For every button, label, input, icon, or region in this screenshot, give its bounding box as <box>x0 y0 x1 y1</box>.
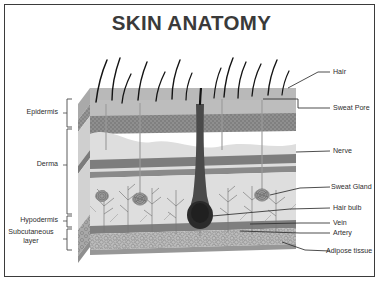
label-subcutaneous-line2: layer <box>2 237 60 246</box>
label-epidermis: Epidermis <box>0 108 58 117</box>
skin-block-front-face <box>90 88 296 255</box>
left-brackets <box>63 99 72 250</box>
label-subcutaneous-line1: Subcutaneous <box>2 228 60 237</box>
label-hypodermis: Hypodermis <box>0 216 58 225</box>
label-nerve: Nerve <box>333 147 352 156</box>
label-derma: Derma <box>0 160 58 169</box>
label-hair: Hair <box>333 68 346 77</box>
label-adipose-tissue: Adipose tissue <box>326 247 372 256</box>
label-artery: Artery <box>333 229 352 238</box>
label-sweat-pore: Sweat Pore <box>333 104 370 113</box>
label-sweat-gland: Sweat Gland <box>331 183 372 192</box>
label-hair-bulb: Hair bulb <box>333 204 361 213</box>
block-left-side-face <box>78 88 90 263</box>
label-vein: Vein <box>333 219 347 228</box>
skin-anatomy-diagram: SKIN ANATOMY <box>0 0 383 284</box>
